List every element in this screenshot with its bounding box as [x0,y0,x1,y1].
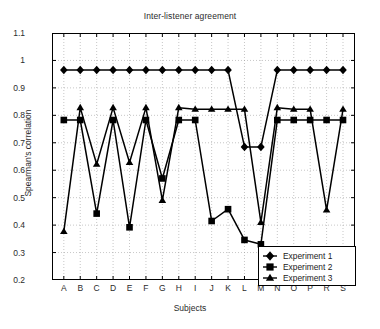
chart-figure: Inter-listener agreement Spearman's corr… [0,0,380,329]
y-tick-label: 0.3 [0,248,25,258]
y-tick-label: 1 [0,55,25,65]
y-tick-label: 0.8 [0,110,25,120]
data-point [159,175,166,182]
data-point [93,66,101,75]
data-point [290,117,297,124]
data-point [208,218,215,225]
data-point [126,66,134,75]
data-point [159,197,167,203]
data-point [339,66,347,75]
data-point [323,206,331,212]
data-point [191,66,199,75]
data-point [225,206,232,213]
legend-label: Experiment 3 [283,273,333,283]
data-point [339,106,347,112]
data-point [241,237,248,244]
data-point [109,66,117,75]
data-point [126,224,133,231]
data-point [76,104,84,110]
legend-label: Experiment 1 [283,251,333,261]
series-2 [61,117,347,248]
chart-title: Inter-listener agreement [0,11,380,21]
data-point [175,66,183,75]
data-point [93,210,100,217]
data-point [274,104,282,110]
data-point [257,143,265,152]
data-point [306,66,314,75]
y-tick-label: 0.2 [0,275,25,285]
data-point [224,66,232,75]
plot-svg [52,33,355,280]
data-point [175,104,183,110]
data-point [192,117,199,124]
data-point [93,160,101,166]
data-point [142,66,150,75]
y-tick-label: 0.6 [0,165,25,175]
data-point [208,66,216,75]
y-axis-label: Spearman's correlation [23,73,33,233]
data-point [61,117,68,124]
data-point [241,143,249,152]
data-point [126,159,134,165]
y-tick-label: 0.5 [0,193,25,203]
data-point [159,66,167,75]
y-tick-label: 1.1 [0,28,25,38]
data-point [109,104,117,110]
data-point [60,66,68,75]
plot-area [52,33,355,280]
data-point [60,228,68,234]
y-tick-label: 0.4 [0,220,25,230]
y-tick-label: 0.7 [0,138,25,148]
data-point [274,66,282,75]
data-point [76,66,84,75]
data-point [142,104,150,110]
y-tick-label: 0.9 [0,83,25,93]
series-1 [60,66,347,151]
legend-svg: Experiment 1Experiment 2Experiment 3 [259,247,355,285]
chart-legend: Experiment 1Experiment 2Experiment 3 [258,246,356,286]
x-axis-label: Subjects [0,303,380,313]
legend-label: Experiment 2 [283,262,333,272]
data-point [323,66,331,75]
data-point [323,117,330,124]
data-point [290,66,298,75]
